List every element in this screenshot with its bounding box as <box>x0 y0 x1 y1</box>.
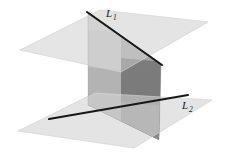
label-L1-subscript: 1 <box>113 13 117 22</box>
scene-svg: L 1 L 2 <box>0 0 230 166</box>
label-L2-base: L <box>181 99 188 111</box>
geometry-figure: L 1 L 2 <box>0 0 230 166</box>
label-L2-subscript: 2 <box>189 105 193 114</box>
label-L1-base: L <box>105 7 112 19</box>
